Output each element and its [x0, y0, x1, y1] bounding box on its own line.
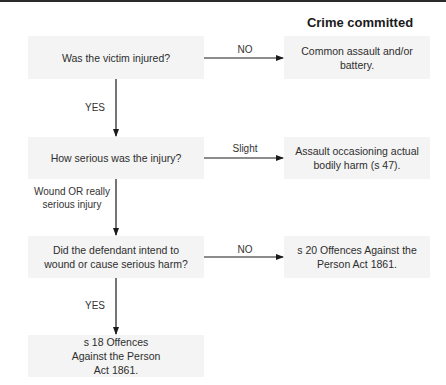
edge-label-q2-slight: Slight [220, 142, 270, 155]
edge-label-q1-yes: YES [80, 101, 110, 114]
edge-label-q1-no: NO [225, 43, 265, 56]
edge-label-q3-yes: YES [80, 299, 110, 312]
edge-label-q2-serious: Wound OR really serious injury [33, 185, 111, 211]
edge-label-q3-no: NO [225, 243, 265, 256]
